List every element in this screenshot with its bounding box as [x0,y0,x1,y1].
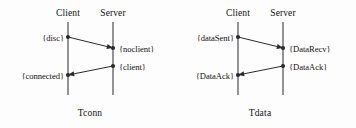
message-arrow-datasent-to-datarecv [238,37,283,49]
actor-label-server: Server [73,8,153,18]
endpoint-client-dot [111,64,115,68]
endpoint-disc-dot [66,35,70,39]
state-label-client: {client} [119,62,146,72]
state-label-dataack-server: {DataAck} [289,62,327,72]
state-label-disc: {disc} [0,33,64,43]
actor-label-server: Server [243,8,323,18]
state-label-datasent: {dataSent} [154,33,234,43]
endpoint-dataack-server-dot [281,64,285,68]
message-arrow-dataack-to-dataack [238,66,283,76]
endpoint-noclient-dot [111,46,115,50]
state-label-noclient: {noclient} [119,44,154,54]
diagram-tconn: Client Server {disc} {noclient} {client}… [0,0,178,128]
state-label-dataack-client: {DataAck} [154,71,234,81]
state-label-datarecv: {DataRecv} [289,44,331,54]
message-arrow-client-to-connected [68,66,113,76]
sequence-diagram-figure: Client Server {disc} {noclient} {client}… [0,0,356,128]
message-arrow-disc-to-noclient [68,37,113,49]
endpoint-datarecv-dot [281,46,285,50]
endpoint-connected-dot [66,73,70,77]
state-label-connected: {connected} [0,71,64,81]
diagram-caption-tdata: Tdata [210,108,310,118]
diagram-caption-tconn: Tconn [40,108,140,118]
endpoint-dataack-client-dot [236,73,240,77]
endpoint-datasent-dot [236,35,240,39]
diagram-tdata: Client Server {dataSent} {DataRecv} {Dat… [178,0,356,128]
